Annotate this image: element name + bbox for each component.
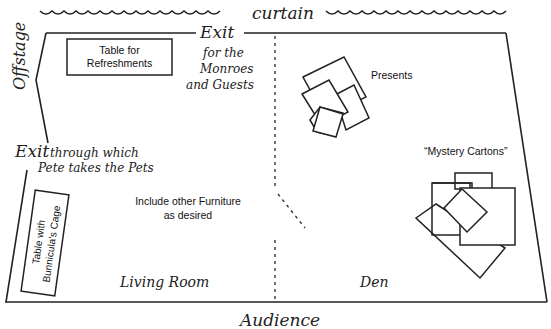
- exit-top-label: Exit: [199, 22, 234, 42]
- presents-label: Presents: [371, 69, 412, 81]
- refreshments-table-line2: Refreshments: [87, 57, 152, 69]
- refreshments-table-line1: Table for: [99, 44, 140, 56]
- offstage-label: Offstage: [10, 22, 29, 90]
- exit-left-note-line2: Pete takes the Pets: [37, 161, 154, 175]
- exit-left-note-line1: through which: [50, 146, 139, 160]
- refreshments-table: Table for Refreshments: [67, 39, 172, 75]
- exit-left-label: Exit: [14, 141, 49, 161]
- exit-top-note-line3: and Guests: [186, 78, 254, 92]
- curtain-label: curtain: [252, 3, 314, 23]
- curtain-wave-left: [40, 11, 220, 14]
- furniture-note-line2: as desired: [164, 209, 213, 221]
- audience-label: Audience: [238, 310, 320, 329]
- exit-top-note-line2: Monroes: [199, 62, 253, 76]
- cage-table: Table with Bunnicula's Cage: [21, 190, 69, 296]
- room-divider: [275, 36, 305, 302]
- den-label: Den: [359, 274, 389, 290]
- mystery-cartons-label: “Mystery Cartons”: [424, 145, 508, 157]
- furniture-note-line1: Include other Furniture: [135, 195, 241, 207]
- exit-top-note-line1: for the: [202, 46, 244, 60]
- mystery-cartons-boxes: [416, 173, 515, 278]
- living-room-label: Living Room: [119, 274, 209, 290]
- presents-boxes: [302, 57, 369, 137]
- curtain-wave-right: [326, 11, 506, 14]
- stage-diagram: curtain Offstage Exit for the Monroes an…: [0, 0, 551, 329]
